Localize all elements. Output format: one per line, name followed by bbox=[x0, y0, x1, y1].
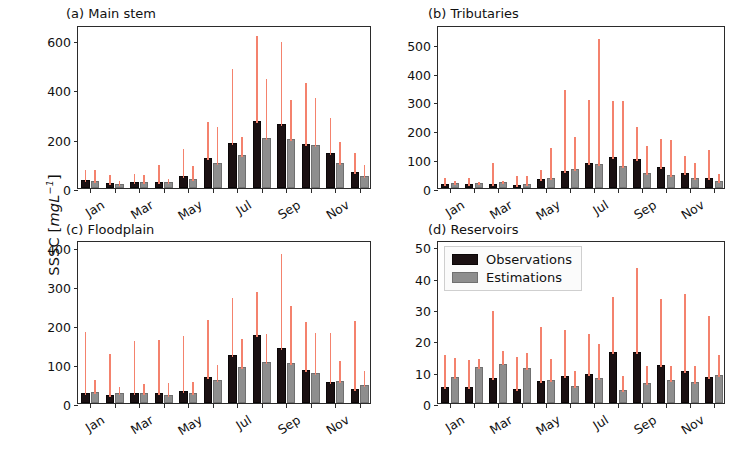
y-tick-label-d-1: 10 bbox=[415, 366, 431, 381]
error-bar-c-Sep-observations bbox=[281, 254, 283, 350]
x-tick-b-Nov bbox=[690, 188, 691, 193]
legend-item-estimations: Estimations bbox=[452, 270, 572, 285]
error-bar-c-Nov-estimations bbox=[339, 361, 341, 382]
error-bar-a-Dec-estimations bbox=[364, 165, 366, 178]
x-tick-label-d-Nov: Nov bbox=[678, 412, 707, 438]
error-bar-d-Mar-estimations bbox=[502, 351, 504, 365]
error-bar-d-Sep-observations bbox=[636, 268, 638, 355]
error-bar-c-Aug-observations bbox=[256, 292, 258, 338]
error-bar-a-Jun-observations bbox=[207, 122, 209, 160]
bar-d-Oct-observations bbox=[657, 365, 665, 403]
x-tick-a-Jun bbox=[213, 188, 214, 193]
x-tick-a-Nov bbox=[335, 188, 336, 193]
y-tick-label-d-2: 20 bbox=[415, 335, 431, 350]
y-tick-b-0 bbox=[434, 190, 439, 191]
x-tick-label-b-Mar: Mar bbox=[487, 197, 515, 222]
error-bar-d-Feb-estimations bbox=[478, 359, 480, 369]
error-bar-c-Jul-estimations bbox=[241, 339, 243, 369]
x-tick-b-Feb bbox=[474, 188, 475, 193]
x-tick-label-d-Mar: Mar bbox=[487, 412, 515, 437]
x-tick-b-Oct bbox=[666, 188, 667, 193]
error-bar-b-Apr-observations bbox=[516, 176, 518, 186]
error-bar-a-Oct-estimations bbox=[315, 98, 317, 146]
error-bar-b-Aug-observations bbox=[612, 101, 614, 160]
y-axis-label: SSSC [mgL−1] bbox=[44, 174, 62, 275]
x-tick-d-Jan bbox=[450, 403, 451, 408]
bar-d-Apr-observations bbox=[513, 389, 521, 403]
error-bar-b-Aug-estimations bbox=[622, 101, 624, 167]
y-tick-label-c-3: 300 bbox=[47, 281, 71, 296]
error-bar-b-Jun-estimations bbox=[574, 137, 576, 171]
y-axis-label-suffix: ] bbox=[46, 174, 62, 180]
x-tick-d-Aug bbox=[618, 403, 619, 408]
x-tick-c-Mar bbox=[139, 403, 140, 408]
x-tick-d-May bbox=[546, 403, 547, 408]
panel-title-c: (c) Floodplain bbox=[66, 222, 154, 237]
bar-d-Feb-observations bbox=[465, 387, 473, 403]
x-tick-label-b-May: May bbox=[533, 197, 563, 223]
error-bar-c-Apr-observations bbox=[158, 340, 160, 395]
bar-d-Jun-observations bbox=[561, 376, 569, 403]
bar-d-Aug-observations bbox=[609, 352, 617, 403]
error-bar-d-Aug-observations bbox=[612, 297, 614, 355]
bar-b-Oct-estimations bbox=[667, 175, 675, 188]
bar-a-Jun-observations bbox=[204, 158, 212, 188]
x-tick-label-c-Mar: Mar bbox=[128, 412, 156, 437]
bar-b-Jul-estimations bbox=[595, 164, 603, 188]
x-tick-label-b-Nov: Nov bbox=[678, 197, 707, 223]
error-bar-b-May-observations bbox=[540, 170, 542, 181]
x-tick-label-c-Jan: Jan bbox=[83, 412, 107, 435]
error-bar-d-Oct-estimations bbox=[670, 366, 672, 382]
plot-area-c: 0100200300400JanMarMayJulSepNov bbox=[77, 241, 371, 404]
bar-a-Sep-observations bbox=[277, 124, 285, 188]
x-tick-a-Jan bbox=[90, 188, 91, 193]
x-tick-label-d-Sep: Sep bbox=[631, 412, 659, 437]
error-bar-c-Apr-estimations bbox=[168, 383, 170, 397]
bar-d-Jan-estimations bbox=[451, 377, 459, 403]
x-tick-d-Dec bbox=[714, 403, 715, 408]
error-bar-c-Jan-observations bbox=[85, 332, 87, 395]
bar-a-Dec-observations bbox=[351, 172, 359, 188]
panel-title-b: (b) Tributaries bbox=[428, 6, 519, 21]
error-bar-c-Dec-estimations bbox=[364, 371, 366, 387]
error-bar-d-Aug-estimations bbox=[622, 376, 624, 392]
error-bar-c-Mar-estimations bbox=[143, 384, 145, 395]
error-bar-b-Oct-estimations bbox=[670, 140, 672, 176]
bar-b-Sep-observations bbox=[633, 159, 641, 188]
y-tick-label-d-4: 40 bbox=[415, 272, 431, 287]
bar-b-Jun-observations bbox=[561, 171, 569, 188]
bar-d-Sep-estimations bbox=[643, 383, 651, 403]
y-tick-label-a-1: 200 bbox=[47, 133, 71, 148]
bar-d-Jun-estimations bbox=[571, 386, 579, 403]
error-bar-a-Feb-estimations bbox=[119, 181, 121, 185]
x-tick-b-Mar bbox=[498, 188, 499, 193]
x-tick-d-Mar bbox=[498, 403, 499, 408]
x-tick-label-c-Sep: Sep bbox=[275, 412, 303, 437]
x-tick-label-c-Nov: Nov bbox=[324, 412, 353, 438]
x-tick-b-Jul bbox=[594, 188, 595, 193]
bar-c-Sep-observations bbox=[277, 348, 285, 403]
x-tick-label-a-Jan: Jan bbox=[83, 197, 107, 220]
error-bar-b-Dec-estimations bbox=[718, 174, 720, 183]
figure-canvas: SSSC [mgL−1] (a) Main stem0200400600JanM… bbox=[0, 0, 729, 450]
error-bar-b-Jul-estimations bbox=[598, 39, 600, 166]
x-tick-a-Dec bbox=[360, 188, 361, 193]
x-tick-label-a-Sep: Sep bbox=[275, 197, 303, 222]
x-tick-d-Feb bbox=[474, 403, 475, 408]
error-bar-d-Apr-observations bbox=[516, 357, 518, 390]
error-bar-a-Sep-estimations bbox=[290, 100, 292, 141]
bar-b-Nov-observations bbox=[681, 173, 689, 188]
bar-d-Jul-estimations bbox=[595, 378, 603, 403]
bars-layer-c bbox=[78, 242, 370, 403]
x-tick-b-Sep bbox=[642, 188, 643, 193]
error-bar-b-Jan-estimations bbox=[454, 181, 456, 185]
error-bar-c-Jun-estimations bbox=[217, 365, 219, 382]
bar-c-Oct-observations bbox=[302, 370, 310, 403]
bar-c-Nov-observations bbox=[326, 382, 334, 403]
error-bar-a-Mar-observations bbox=[134, 174, 136, 184]
plot-area-a: 0200400600JanMarMayJulSepNov bbox=[77, 26, 371, 189]
x-tick-label-d-Jul: Jul bbox=[590, 412, 611, 433]
bar-c-Aug-estimations bbox=[262, 362, 270, 403]
bar-a-Oct-estimations bbox=[311, 145, 319, 188]
error-bar-c-Jan-estimations bbox=[94, 380, 96, 393]
